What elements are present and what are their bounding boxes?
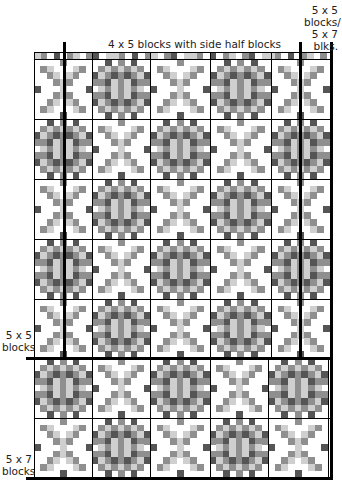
thick-divider-right: [299, 42, 302, 358]
quilt-block-x: [92, 358, 150, 418]
quilt-block-diamond: [210, 59, 271, 119]
quilt-block-x: [34, 418, 92, 477]
grid-line-v: [210, 52, 211, 358]
label-top-right-line4: blks.: [304, 40, 338, 52]
quilt-block-x: [150, 179, 210, 239]
label-left-bottom-line1: 5 x 7: [2, 453, 32, 465]
quilt-diagram: [0, 0, 342, 490]
grid-line-v: [34, 358, 35, 477]
quilt-block-x: [92, 239, 150, 299]
quilt-block-diamond: [150, 239, 210, 299]
quilt-block-diamond: [92, 59, 150, 119]
grid-line-v: [92, 358, 93, 477]
label-top-right-line1: 5 x 5: [304, 4, 338, 16]
quilt-block-x: [210, 239, 271, 299]
grid-line-h: [34, 179, 330, 180]
quilt-block-diamond: [210, 299, 271, 358]
top-half-block-strip: [34, 52, 330, 59]
label-left-mid: 5 x 5 blocks: [2, 329, 32, 353]
quilt-block-diamond: [150, 358, 210, 418]
quilt-block-diamond: [92, 418, 150, 477]
thick-divider-left: [63, 42, 66, 358]
grid-line-h: [34, 418, 330, 419]
quilt-block-x: [150, 299, 210, 358]
grid-line-h: [34, 299, 330, 300]
label-top-center: 4 x 5 blocks with side half blocks: [108, 38, 281, 50]
grid-line-v: [92, 52, 93, 358]
quilt-block-x: [210, 119, 271, 179]
grid-line-top: [34, 52, 330, 53]
grid-line-v: [271, 52, 272, 358]
grid-line-v: [210, 358, 211, 477]
grid-line-v: [34, 52, 35, 358]
label-left-mid-line1: 5 x 5: [2, 329, 32, 341]
grid-line-h: [34, 119, 330, 120]
label-left-bottom-line2: blocks: [2, 465, 32, 477]
thick-divider-edge: [330, 42, 333, 479]
grid-line-v: [150, 358, 151, 477]
label-top-right-line2: blocks/: [304, 16, 338, 28]
quilt-block-diamond: [150, 119, 210, 179]
quilt-block-x: [268, 418, 328, 477]
quilt-block-x: [150, 418, 210, 477]
quilt-block-diamond: [268, 358, 328, 418]
label-top-right-line3: 5 x 7: [304, 28, 338, 40]
quilt-block-diamond: [92, 179, 150, 239]
quilt-block-diamond: [210, 418, 268, 477]
grid-line-h: [34, 239, 330, 240]
quilt-block-diamond: [210, 179, 271, 239]
quilt-block-x: [210, 358, 268, 418]
label-left-mid-line2: blocks: [2, 341, 32, 353]
grid-line-v: [328, 358, 329, 477]
quilt-block-diamond: [92, 299, 150, 358]
label-left-bottom: 5 x 7 blocks: [2, 453, 32, 477]
grid-line-v: [268, 358, 269, 477]
grid-line-h: [34, 59, 330, 60]
thick-divider-bottom: [26, 477, 333, 480]
quilt-block-x: [92, 119, 150, 179]
quilt-block-x: [150, 59, 210, 119]
quilt-block-diamond: [34, 358, 92, 418]
thick-divider-horizontal: [26, 357, 333, 360]
grid-line-v: [150, 52, 151, 358]
label-top-right: 5 x 5 blocks/ 5 x 7 blks.: [304, 4, 338, 52]
